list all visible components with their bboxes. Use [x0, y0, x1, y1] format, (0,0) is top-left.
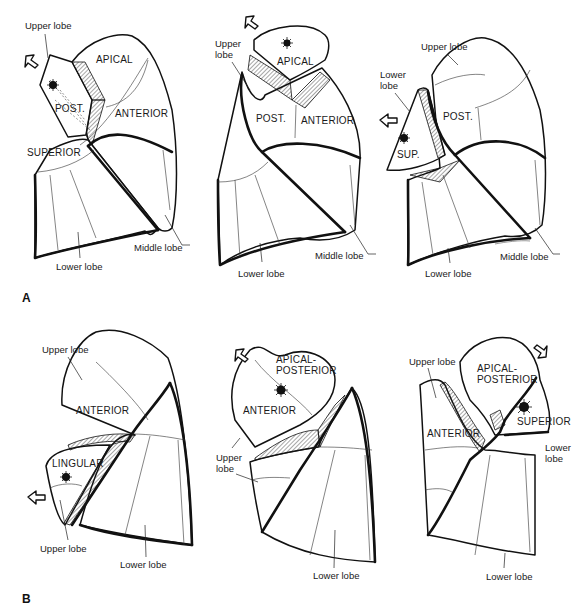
label-a1-anterior: ANTERIOR: [115, 108, 168, 119]
callout-a1-middle-lobe: Middle lobe: [134, 242, 183, 253]
label-a2-anterior: ANTERIOR: [301, 115, 354, 126]
callout-b3-lower-lobe-side-line1: Lower: [545, 442, 571, 453]
callout-a2-lower-lobe: Lower lobe: [238, 268, 284, 279]
label-a3-sup: SUP.: [397, 149, 420, 160]
callout-a3-upper-lobe: Upper lobe: [421, 41, 467, 52]
callout-b3-lower-lobe: Lower lobe: [486, 571, 532, 582]
panel-label-b: B: [22, 592, 31, 606]
callout-b1-upper-lobe-top: Upper lobe: [42, 344, 88, 355]
callout-a3-lower-lobe-line1: Lower: [380, 69, 406, 80]
retraction-arrow-icon: [380, 114, 397, 127]
callout-b2-upper-lobe-line2: lobe: [216, 463, 234, 474]
drawing-b3: Upper lobe APICAL- POSTERIOR ANTERIOR SU…: [409, 337, 571, 582]
drawing-b1: Upper lobe ANTERIOR LINGULAR Upper lobe …: [28, 330, 192, 570]
label-a2-post: POST.: [256, 113, 286, 124]
label-b2-apical-posterior-line1: APICAL-: [276, 354, 316, 365]
callout-a2-middle-lobe: Middle lobe: [315, 250, 364, 261]
drawing-a3: Upper lobe Lower lobe POST. SUP. Middle …: [380, 38, 560, 279]
callout-b3-lower-lobe-side-line2: lobe: [545, 453, 563, 464]
retraction-arrow-icon: [534, 345, 547, 358]
label-a2-apical: APICAL: [277, 56, 314, 67]
lesion-icon: [274, 383, 288, 397]
label-b1-anterior: ANTERIOR: [76, 405, 129, 416]
callout-b3-upper-lobe: Upper lobe: [409, 356, 455, 367]
drawing-a2: Upper lobe APICAL POST. ANTERIOR Middle …: [215, 16, 376, 279]
callout-a2-upper-lobe-line1: Upper: [215, 38, 241, 49]
retraction-arrow-icon: [245, 16, 258, 29]
callout-b2-upper-lobe-line1: Upper: [216, 452, 242, 463]
label-b2-anterior: ANTERIOR: [243, 405, 296, 416]
callout-b1-lower-lobe: Lower lobe: [120, 559, 166, 570]
label-b2-apical-posterior-line2: POSTERIOR: [276, 365, 337, 376]
retraction-arrow-icon: [25, 55, 38, 68]
callout-a2-upper-lobe-line2: lobe: [215, 49, 233, 60]
label-b3-apical-posterior-line2: POSTERIOR: [477, 374, 538, 385]
drawing-b2: APICAL- POSTERIOR ANTERIOR Upper lobe Lo…: [216, 347, 375, 581]
label-a1-superior: SUPERIOR: [27, 147, 81, 158]
callout-a1-lower-lobe: Lower lobe: [56, 261, 102, 272]
callout-a1-upper-lobe: Upper lobe: [25, 20, 71, 31]
callout-a3-lower-lobe-line2: lobe: [380, 80, 398, 91]
callout-b2-lower-lobe: Lower lobe: [313, 570, 359, 581]
label-b3-anterior: ANTERIOR: [427, 428, 480, 439]
lesion-icon: [516, 399, 532, 415]
label-b3-apical-posterior-line1: APICAL-: [477, 363, 517, 374]
drawing-a1: Upper lobe APICAL POST. ANTERIOR SUPERIO…: [25, 20, 190, 272]
label-b1-lingular: LINGULAR: [52, 458, 104, 469]
panel-label-a: A: [22, 291, 31, 305]
label-a1-post: POST.: [55, 103, 85, 114]
label-a1-apical: APICAL: [96, 54, 133, 65]
label-a3-post: POST.: [443, 111, 473, 122]
callout-a3-lower-lobe: Lower lobe: [425, 268, 471, 279]
label-b3-superior: SUPERIOR: [517, 416, 571, 427]
callout-b1-upper-lobe-bottom: Upper lobe: [40, 543, 86, 554]
callout-a3-middle-lobe: Middle lobe: [500, 251, 549, 262]
retraction-arrow-icon: [28, 491, 45, 504]
